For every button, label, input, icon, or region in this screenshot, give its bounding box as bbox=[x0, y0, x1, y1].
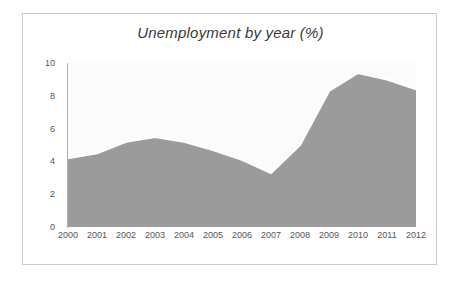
y-tick-label: 4 bbox=[50, 156, 55, 166]
x-tick-label: 2010 bbox=[348, 230, 368, 240]
x-tick-label: 2001 bbox=[87, 230, 107, 240]
x-tick-label: 2009 bbox=[319, 230, 339, 240]
x-tick-label: 2012 bbox=[406, 230, 426, 240]
area-series-fill bbox=[68, 73, 416, 227]
x-tick-label: 2004 bbox=[174, 230, 194, 240]
chart-figure-frame: Unemployment by year (%) 0246810 2000200… bbox=[22, 13, 437, 265]
x-tick-label: 2006 bbox=[232, 230, 252, 240]
y-tick-label: 8 bbox=[50, 91, 55, 101]
x-tick-label: 2000 bbox=[58, 230, 78, 240]
x-tick-label: 2011 bbox=[377, 230, 396, 240]
x-tick-label: 2003 bbox=[145, 230, 165, 240]
y-tick-label: 6 bbox=[50, 124, 55, 134]
x-tick-label: 2007 bbox=[261, 230, 281, 240]
x-tick-label: 2002 bbox=[116, 230, 136, 240]
x-tick-label: 2005 bbox=[203, 230, 223, 240]
y-axis-tick-labels: 0246810 bbox=[23, 14, 63, 264]
y-tick-label: 0 bbox=[50, 222, 55, 232]
y-tick-label: 2 bbox=[50, 189, 55, 199]
x-axis-tick-labels: 2000200120022003200420052006200720082009… bbox=[68, 230, 416, 246]
y-tick-label: 10 bbox=[45, 58, 55, 68]
area-chart-svg bbox=[68, 63, 416, 227]
x-tick-label: 2008 bbox=[290, 230, 310, 240]
plot-area bbox=[68, 63, 416, 227]
chart-title: Unemployment by year (%) bbox=[23, 24, 438, 41]
